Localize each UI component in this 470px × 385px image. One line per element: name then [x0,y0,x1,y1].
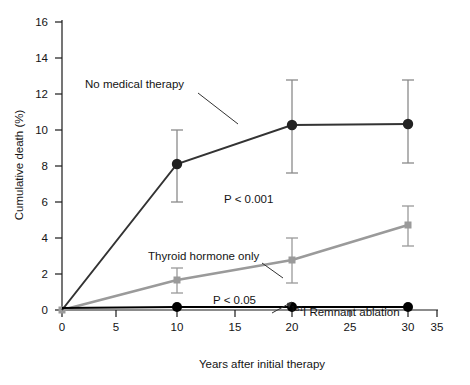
y-tick-label-2: 2 [42,268,48,280]
data-point-remnant-10 [172,302,182,312]
data-point-thyroid-20 [289,257,296,264]
p-value-annotation-primary: P < 0.001 [224,193,273,205]
data-point-remnant-30 [403,302,413,312]
y-tick-label-14: 14 [35,52,48,64]
data-point-nomed-10 [172,159,182,169]
x-tick-label-35: 35 [431,321,444,333]
figure-container: 16 14 12 10 8 6 4 2 0 0 5 10 15 20 [0,0,470,385]
y-tick-label-8: 8 [42,160,48,172]
data-point-thyroid-30 [405,222,412,229]
y-tick-label-16: 16 [35,16,48,28]
series-label-remnant-ablation: I Remnant ablation [303,306,400,318]
y-tick-label-0: 0 [42,304,48,316]
x-tick-label-0: 0 [59,321,65,333]
x-tick-label-5: 5 [113,321,119,333]
data-point-nomed-20 [287,120,297,130]
x-tick-label-30: 30 [402,321,415,333]
x-axis-title: Years after initial therapy [199,358,325,370]
x-tick-label-15: 15 [229,321,242,333]
x-tick-label-25: 25 [344,321,357,333]
series-label-thyroid-hormone-only: Thyroid hormone only [148,250,259,262]
x-tick-label-10: 10 [171,321,184,333]
y-tick-label-12: 12 [35,88,48,100]
series-label-no-medical-therapy: No medical therapy [85,78,184,90]
cumulative-death-line-chart: 16 14 12 10 8 6 4 2 0 0 5 10 15 20 [0,0,470,385]
y-tick-label-6: 6 [42,196,48,208]
p-value-annotation-secondary: P < 0.05 [213,294,256,306]
data-point-thyroid-10 [174,277,181,284]
y-axis-title: Cumulative death (%) [13,110,25,221]
data-point-nomed-30 [403,119,413,129]
y-tick-label-10: 10 [35,124,48,136]
y-tick-label-4: 4 [42,232,49,244]
x-tick-label-20: 20 [286,321,299,333]
series-label-remnant-superscript: 131 [291,304,304,313]
